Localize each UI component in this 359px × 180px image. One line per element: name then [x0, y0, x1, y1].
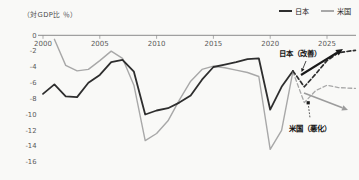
us-worsening-label: 米国（悪化）	[288, 124, 331, 133]
x-axis-tick-label: 2005	[91, 40, 109, 48]
x-axis-tick-label: 2010	[148, 40, 166, 48]
x-axis-tick-label: 2000	[34, 40, 52, 48]
us-forecast-point-marker	[307, 101, 310, 104]
legend-line-swatch	[279, 10, 292, 12]
us-worsening-arrow	[304, 93, 342, 108]
y-axis-tick-label: -2	[30, 47, 37, 55]
x-axis-tick-label: 2020	[261, 40, 279, 48]
x-axis-tick-label: 2015	[204, 40, 222, 48]
series-line-us-forecast	[293, 72, 356, 103]
series-line-us	[54, 39, 293, 149]
japan-annotation-pointer	[303, 61, 306, 69]
legend-label: 米国	[337, 6, 351, 16]
legend-line-swatch	[321, 10, 334, 12]
fiscal-balance-chart: （対GDP比 ％） 日本米国 2000200520102015202020250…	[0, 0, 359, 180]
y-axis-tick-label: -14	[25, 142, 36, 150]
y-axis-tick-label: -4	[30, 63, 37, 71]
chart-legend: 日本米国	[279, 6, 351, 16]
legend-label: 日本	[295, 6, 309, 16]
legend-item-us: 米国	[321, 6, 351, 16]
x-axis-tick-label: 2025	[318, 40, 336, 48]
y-axis-tick-label: -6	[30, 79, 37, 87]
y-axis-tick-label: -10	[25, 111, 36, 119]
us-annotation-pointer	[309, 106, 311, 118]
y-axis-tick-label: -16	[25, 158, 36, 166]
legend-item-japan: 日本	[279, 6, 309, 16]
y-axis-unit-label: （対GDP比 ％）	[23, 9, 77, 19]
y-axis-tick-label: 0	[32, 32, 36, 40]
y-axis-tick-label: -12	[25, 127, 36, 135]
series-line-japan	[43, 58, 293, 114]
japan-improvement-label: 日本（改善）	[279, 49, 321, 58]
y-axis-tick-label: -8	[30, 95, 37, 103]
chart-canvas: 2000200520102015202020250-2-4-6-8-10-12-…	[0, 0, 359, 180]
